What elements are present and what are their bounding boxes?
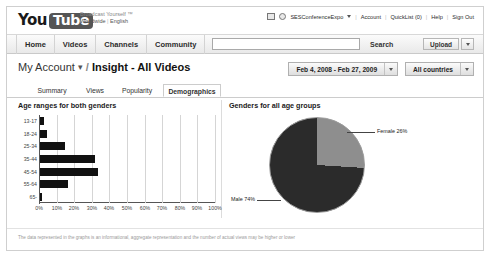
breadcrumb-separator: /	[86, 61, 89, 73]
nav-tab-channels[interactable]: Channels	[96, 35, 147, 54]
upload-menu-button[interactable]	[461, 38, 474, 50]
panel-divider	[221, 100, 222, 218]
female-leader-line	[347, 132, 375, 133]
x-axis-tick-label: 70%	[157, 205, 167, 211]
divider-3: |	[426, 14, 427, 20]
slogan-worldwide[interactable]: Worldwide	[80, 18, 106, 24]
gridline	[180, 115, 181, 203]
chevron-down-icon	[466, 43, 470, 46]
bar	[40, 180, 68, 188]
charts-panel: Age ranges for both genders 0%10%20%30%4…	[7, 98, 483, 223]
age-chart-title: Age ranges for both genders	[18, 101, 116, 110]
x-axis-tick-label: 30%	[87, 205, 97, 211]
gridline	[145, 115, 146, 203]
globe-icon[interactable]	[279, 13, 286, 20]
divider-4: |	[447, 14, 448, 20]
x-axis-tick-label: 50%	[122, 205, 132, 211]
slogan-separator: |	[107, 18, 108, 24]
nav-tab-community[interactable]: Community	[147, 35, 205, 54]
age-ranges-chart: Age ranges for both genders 0%10%20%30%4…	[18, 101, 218, 219]
chevron-down-icon[interactable]	[347, 15, 351, 18]
chevron-down-icon	[460, 63, 473, 75]
page-frame: You Tube Broadcast Yourself ™ Worldwide …	[6, 6, 484, 251]
divider-2: |	[385, 14, 386, 20]
bar-row: 18-24	[40, 130, 47, 138]
search-area: Search	[212, 38, 397, 50]
date-range-value: Feb 4, 2008 - Feb 27, 2009	[289, 63, 384, 76]
y-axis-tick-label: 35-44	[24, 155, 37, 163]
filter-controls: Feb 4, 2008 - Feb 27, 2009 All countries	[288, 62, 474, 76]
female-slice-label: Female 26%	[377, 128, 407, 134]
y-axis-tick-label: 65-	[30, 193, 38, 201]
slogan-language[interactable]: English	[110, 18, 128, 24]
bar	[40, 168, 98, 176]
upload-area: Upload	[423, 38, 474, 50]
gridline	[197, 115, 198, 203]
breadcrumb: My Account ▾ / Insight - All Videos	[18, 61, 190, 73]
youtube-insight-page: You Tube Broadcast Yourself ™ Worldwide …	[0, 0, 492, 257]
help-link[interactable]: Help	[431, 14, 443, 20]
bar	[40, 142, 65, 150]
x-axis-tick-label: 40%	[104, 205, 114, 211]
country-select[interactable]: All countries	[405, 62, 474, 76]
search-button[interactable]: Search	[366, 41, 397, 48]
x-axis-tick-label: 100%	[208, 205, 221, 211]
age-chart-plot: 0%10%20%30%40%50%60%70%80%90%100%13-1718…	[39, 115, 215, 203]
nav-tab-videos[interactable]: Videos	[55, 35, 96, 54]
date-range-select[interactable]: Feb 4, 2008 - Feb 27, 2009	[288, 62, 398, 76]
quicklist-link[interactable]: QuickList (0)	[390, 14, 421, 20]
x-axis-tick-label: 60%	[140, 205, 150, 211]
tab-summary[interactable]: Summary	[31, 84, 73, 97]
nav-tab-home[interactable]: Home	[16, 35, 55, 54]
breadcrumb-my-account[interactable]: My Account	[18, 61, 75, 73]
bar	[40, 117, 44, 125]
bar	[40, 193, 42, 201]
slogan: Broadcast Yourself ™ Worldwide | English	[80, 11, 133, 25]
y-axis-tick-label: 18-24	[24, 130, 37, 138]
x-axis-tick-label: 80%	[175, 205, 185, 211]
account-link[interactable]: Account	[361, 14, 381, 20]
bar-row: 45-54	[40, 168, 98, 176]
chevron-down-icon	[384, 63, 397, 75]
y-axis-tick-label: 55-64	[24, 180, 37, 188]
footer-note: The data represented in the graphs is an…	[7, 228, 483, 250]
y-axis-tick-label: 45-54	[24, 168, 37, 176]
male-slice-label: Male 74%	[231, 196, 255, 202]
page-title: Insight - All Videos	[92, 61, 190, 73]
sign-out-link[interactable]: Sign Out	[452, 14, 474, 20]
bar-row: 65-	[40, 193, 42, 201]
bar-row: 13-17	[40, 117, 44, 125]
divider-1: |	[355, 14, 356, 20]
slogan-line2-row: Worldwide | English	[80, 18, 133, 25]
bar-row: 25-34	[40, 142, 65, 150]
account-name-link[interactable]: SESConferenceExpo	[290, 14, 343, 20]
search-input[interactable]	[212, 38, 360, 50]
x-axis-tick-label: 0%	[35, 205, 43, 211]
gender-chart-title: Genders for all age groups	[229, 101, 320, 110]
y-axis-tick-label: 25-34	[24, 142, 37, 150]
nav-tab-list: Home Videos Channels Community	[16, 35, 205, 54]
title-row: My Account ▾ / Insight - All Videos Feb …	[7, 59, 483, 83]
y-axis-tick-label: 13-17	[24, 117, 37, 125]
tab-demographics[interactable]: Demographics	[163, 84, 221, 97]
x-axis-tick-label: 10%	[52, 205, 62, 211]
tab-popularity[interactable]: Popularity	[117, 84, 157, 97]
inbox-icon[interactable]	[267, 13, 275, 20]
gridline	[127, 115, 128, 203]
tab-views[interactable]: Views	[79, 84, 111, 97]
country-value: All countries	[406, 63, 460, 76]
chevron-down-icon[interactable]: ▾	[78, 62, 83, 72]
gridline	[215, 115, 216, 203]
bar-row: 55-64	[40, 180, 68, 188]
slogan-line1: Broadcast Yourself ™	[80, 11, 133, 18]
bar-row: 35-44	[40, 155, 95, 163]
gridline	[109, 115, 110, 203]
main-navigation: Home Videos Channels Community Search Up…	[7, 34, 483, 54]
bar	[40, 130, 47, 138]
male-leader-line	[257, 200, 281, 201]
insight-subtabs: Summary Views Popularity Demographics	[7, 83, 483, 98]
upload-button[interactable]: Upload	[423, 38, 459, 50]
logo-you-text: You	[18, 13, 47, 28]
x-axis-tick-label: 20%	[69, 205, 79, 211]
genders-chart: Genders for all age groups Female 26% Ma…	[229, 101, 479, 219]
